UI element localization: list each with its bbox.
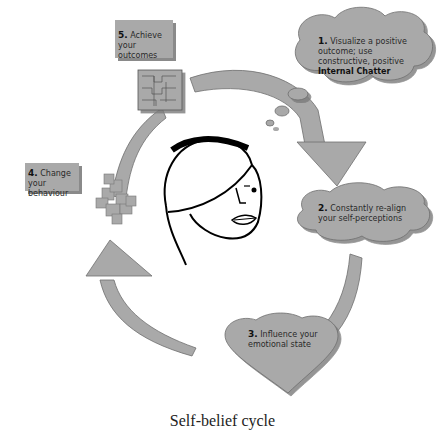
step-2-label: 2. Constantly re-align your self-percept…	[318, 203, 418, 224]
woman-face-drawing	[165, 139, 262, 265]
arrow-3-to-4	[100, 280, 196, 356]
scattered-puzzle-icon	[96, 174, 136, 224]
step-1-text: Visualize a positive outcome; use constr…	[318, 37, 407, 66]
step-3-number: 3.	[248, 329, 258, 339]
arrowhead-to-4	[86, 240, 152, 276]
step-5-number: 5.	[118, 30, 128, 40]
step-2-number: 2.	[318, 203, 328, 213]
heart-step-3	[225, 313, 338, 393]
step-4-number: 4.	[28, 168, 38, 178]
step-1-bold-text: Internal Chatter	[318, 67, 390, 76]
step-3-text: Influence your emotional state	[248, 330, 318, 349]
diagram-caption: Self-belief cycle	[0, 412, 445, 430]
step-2-text: Constantly re-align your self-perception…	[318, 204, 406, 223]
step-1-number: 1.	[318, 36, 328, 46]
step-3-label: 3. Influence your emotional state	[248, 329, 322, 350]
step-1-label: 1. Visualize a positive outcome; use con…	[318, 36, 418, 77]
step-4-label: 4. Change your behaviour	[28, 168, 80, 199]
step-5-label: 5. Achieve your outcomes	[118, 30, 174, 61]
puzzle-square-icon	[138, 70, 182, 110]
arrowhead-to-2	[297, 142, 366, 186]
